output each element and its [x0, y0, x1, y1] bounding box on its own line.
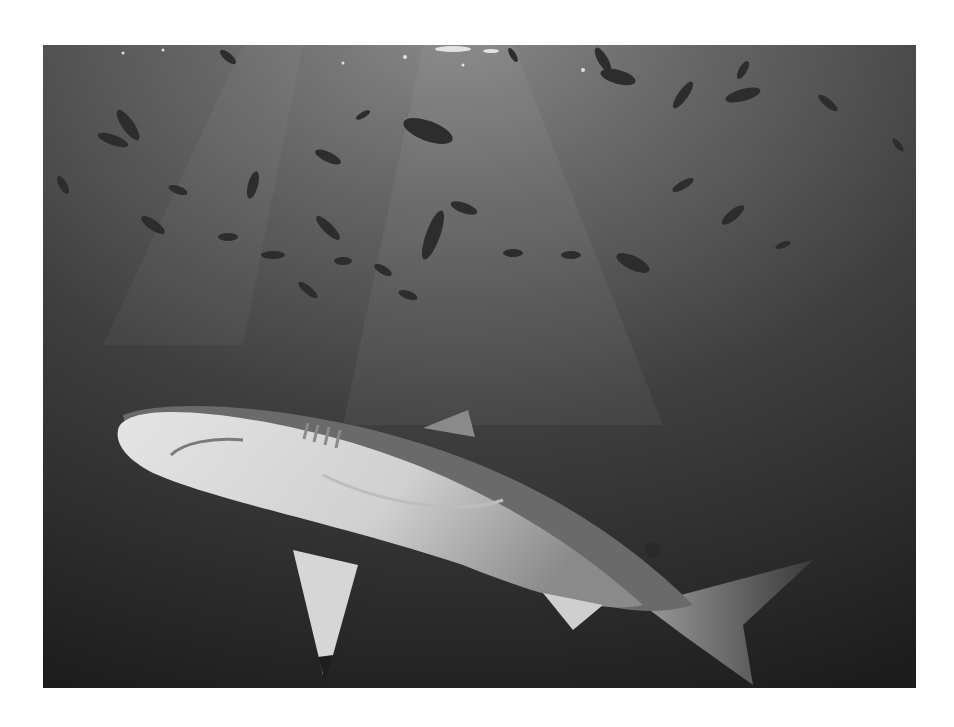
shark-photo: Grayscale underwater photograph of a ree…: [43, 45, 916, 688]
underwater-scene: [43, 45, 916, 688]
